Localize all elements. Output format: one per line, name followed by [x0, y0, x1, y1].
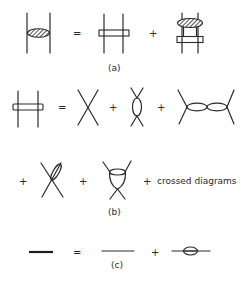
- plus-sign-b3: +: [19, 176, 27, 187]
- plus-sign-b2: +: [157, 102, 165, 113]
- equals-sign-b: =: [58, 102, 66, 113]
- caption-b: (b): [108, 207, 121, 217]
- triangle-loop-diagram: [103, 161, 131, 199]
- crossed-diagrams-label: crossed diagrams: [157, 176, 237, 186]
- blob-over-rung-diagram: [177, 13, 203, 53]
- panel-b: = + + + +: [13, 88, 237, 217]
- plus-sign-b5: +: [143, 176, 151, 187]
- crossed-bubble-diagram: [41, 163, 63, 197]
- plus-sign-a: +: [149, 28, 157, 39]
- feynman-diagram-figure: = + (a) =: [0, 0, 248, 281]
- self-energy-insertion-diagram: [172, 247, 210, 255]
- plus-sign-c: +: [151, 247, 159, 258]
- rung-diagram: [99, 14, 129, 53]
- caption-c: (c): [111, 260, 123, 270]
- plus-sign-b4: +: [79, 176, 87, 187]
- double-bubble-diagram: [178, 90, 234, 124]
- four-point-vertex-diagram: [78, 90, 98, 125]
- panel-c: = + (c): [29, 247, 210, 270]
- panel-a: = + (a): [27, 13, 203, 73]
- rung-diagram-b: [13, 91, 43, 127]
- caption-a: (a): [108, 63, 121, 73]
- equals-sign-a: =: [73, 28, 81, 39]
- bubble-diagram: [131, 88, 143, 126]
- blob-two-line-diagram: [27, 13, 50, 53]
- equals-sign-c: =: [73, 247, 81, 258]
- plus-sign-b1: +: [109, 102, 117, 113]
